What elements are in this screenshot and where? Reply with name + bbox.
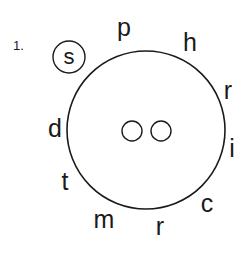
blank-circle-1	[122, 121, 142, 141]
circled-letter: s	[64, 46, 75, 68]
wheel-letter: d	[48, 116, 62, 141]
wheel-letter: r	[224, 78, 232, 103]
letter-wheel-circle	[67, 51, 225, 209]
wheel-letter: h	[183, 30, 197, 55]
wheel-letter: c	[201, 191, 214, 216]
wheel-letter: p	[117, 15, 131, 40]
wheel-letter: t	[62, 169, 69, 194]
wheel-letter: i	[229, 136, 235, 161]
blank-circle-2	[151, 121, 171, 141]
wheel-letter: m	[94, 207, 115, 232]
puzzle-number: 1.	[13, 38, 24, 53]
wheel-letter: r	[156, 214, 164, 239]
